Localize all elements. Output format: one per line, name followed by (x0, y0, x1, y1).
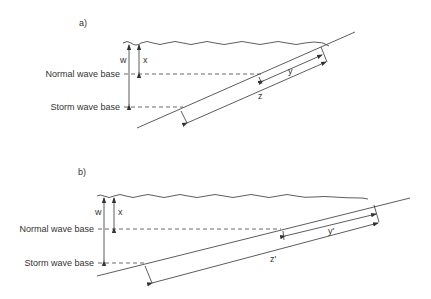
z-span-arrow-b (152, 223, 378, 283)
x-label-a: x (143, 55, 148, 65)
y-label-a: y (288, 66, 293, 76)
shore-tick-b (374, 205, 379, 222)
panel-a-label: a) (79, 18, 87, 28)
storm-wave-base-label-a: Storm wave base (50, 102, 120, 112)
shore-tick-a (321, 47, 327, 62)
z-label-a: z (258, 91, 263, 101)
z-tick-a (181, 111, 187, 123)
sea-floor-slope-a (137, 32, 355, 128)
sea-floor-slope-b (97, 198, 410, 276)
w-label-a: w (119, 55, 127, 65)
z-span-arrow-a (187, 62, 326, 123)
panel-b: b) Normal wave base Storm wave base w x … (19, 167, 410, 283)
normal-wave-base-label-a: Normal wave base (45, 69, 120, 79)
y-tick-b (283, 231, 284, 240)
w-label-b: w (94, 207, 102, 217)
panel-b-label: b) (78, 167, 86, 177)
normal-wave-base-label-b: Normal wave base (19, 224, 94, 234)
storm-wave-base-label-b: Storm wave base (24, 258, 94, 268)
panel-a: a) Normal wave base Storm wave base w x … (45, 18, 355, 128)
sea-surface-b (97, 195, 368, 200)
wave-base-diagram: a) Normal wave base Storm wave base w x … (0, 0, 431, 299)
x-label-b: x (118, 207, 123, 217)
z-label-b: z' (270, 254, 277, 264)
z-tick-b (145, 266, 152, 283)
sea-surface-a (123, 42, 329, 47)
y-tick-a (259, 77, 262, 84)
